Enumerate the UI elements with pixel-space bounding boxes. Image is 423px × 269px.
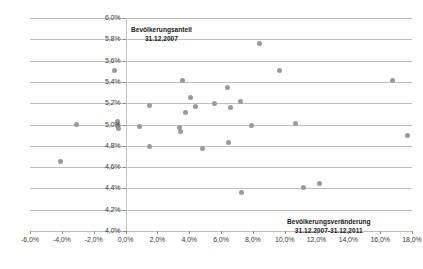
data-point — [112, 68, 117, 73]
gridline-horizontal — [30, 82, 412, 83]
x-axis-tick-label: 12,0% — [299, 236, 335, 243]
gridline-horizontal — [30, 167, 412, 168]
gridline-horizontal — [30, 61, 412, 62]
data-point — [239, 190, 244, 195]
y-axis-tick-mark — [123, 82, 126, 83]
y-axis-tick-label: 5,0% — [93, 121, 121, 128]
x-axis-tick-label: 14,0% — [330, 236, 366, 243]
y-axis-tick-mark — [123, 188, 126, 189]
data-point — [200, 146, 205, 151]
x-axis-tick-mark — [317, 231, 318, 234]
x-axis-tick-mark — [30, 231, 31, 234]
y-axis-line — [126, 18, 127, 231]
x-axis-tick-label: 2,0% — [139, 236, 175, 243]
data-point — [228, 105, 233, 110]
data-point — [212, 101, 217, 106]
data-point — [405, 133, 410, 138]
x-axis-tick-mark — [62, 231, 63, 234]
y-axis-tick-mark — [123, 167, 126, 168]
x-axis-tick-label: 10,0% — [267, 236, 303, 243]
data-point — [238, 99, 243, 104]
data-point — [277, 68, 282, 73]
data-point — [178, 129, 183, 134]
plot-area — [30, 18, 412, 231]
data-point — [225, 85, 230, 90]
x-axis-tick-label: -6,0% — [12, 236, 48, 243]
x-axis-tick-mark — [157, 231, 158, 234]
gridline-horizontal — [30, 125, 412, 126]
y-axis-title-line1: Bevölkerungsanteil — [131, 26, 192, 33]
data-point — [58, 159, 63, 164]
y-axis-tick-label: 4,0% — [93, 227, 121, 234]
x-axis-title: Bevölkerungsveränderung 31.12.2007-31.12… — [287, 218, 371, 236]
x-axis-tick-label: 16,0% — [362, 236, 398, 243]
y-axis-tick-mark — [123, 146, 126, 147]
y-axis-tick-label: 4,8% — [93, 142, 121, 149]
data-point — [188, 95, 193, 100]
data-point — [74, 122, 79, 127]
data-point — [183, 110, 188, 115]
x-axis-title-line2: 31.12.2007-31.12.2011 — [287, 227, 371, 236]
x-axis-tick-mark — [94, 231, 95, 234]
gridline-horizontal — [30, 18, 412, 19]
gridline-horizontal — [30, 188, 412, 189]
gridline-horizontal — [30, 39, 412, 40]
x-axis-tick-mark — [126, 231, 127, 234]
y-axis-title: Bevölkerungsanteil 31.12.2007 — [131, 26, 192, 44]
x-axis-tick-label: 0,0% — [108, 236, 144, 243]
y-axis-tick-label: 4,4% — [93, 184, 121, 191]
y-axis-tick-mark — [123, 39, 126, 40]
x-axis-tick-mark — [348, 231, 349, 234]
data-point — [147, 144, 152, 149]
y-axis-tick-label: 4,6% — [93, 163, 121, 170]
gridline-horizontal — [30, 146, 412, 147]
y-axis-tick-label: 5,2% — [93, 99, 121, 106]
data-point — [193, 104, 198, 109]
y-axis-tick-label: 4,2% — [93, 206, 121, 213]
gridline-horizontal — [30, 103, 412, 104]
gridline-horizontal — [30, 210, 412, 211]
x-axis-tick-mark — [285, 231, 286, 234]
x-axis-tick-mark — [221, 231, 222, 234]
x-axis-tick-label: 6,0% — [203, 236, 239, 243]
y-axis-tick-mark — [123, 125, 126, 126]
x-axis-tick-label: -4,0% — [44, 236, 80, 243]
scatter-chart: Bevölkerungsanteil 31.12.2007 Bevölkerun… — [0, 0, 423, 269]
y-axis-tick-mark — [123, 210, 126, 211]
y-axis-tick-mark — [123, 61, 126, 62]
data-point — [249, 123, 254, 128]
data-point — [226, 140, 231, 145]
y-axis-tick-mark — [123, 103, 126, 104]
x-axis-tick-mark — [253, 231, 254, 234]
y-axis-tick-label: 6,0% — [93, 14, 121, 21]
data-point — [137, 124, 142, 129]
data-point — [317, 181, 322, 186]
x-axis-title-line1: Bevölkerungsveränderung — [287, 218, 371, 225]
x-axis-tick-mark — [380, 231, 381, 234]
x-axis-tick-label: 18,0% — [394, 236, 423, 243]
x-axis-tick-label: 4,0% — [171, 236, 207, 243]
y-axis-tick-label: 5,8% — [93, 35, 121, 42]
y-axis-title-line2: 31.12.2007 — [131, 35, 192, 44]
data-point — [147, 103, 152, 108]
data-point — [257, 41, 262, 46]
x-axis-tick-label: -2,0% — [76, 236, 112, 243]
y-axis-tick-label: 5,4% — [93, 78, 121, 85]
x-axis-tick-label: 8,0% — [235, 236, 271, 243]
y-axis-tick-label: 5,6% — [93, 57, 121, 64]
x-axis-tick-mark — [189, 231, 190, 234]
y-axis-tick-mark — [123, 18, 126, 19]
x-axis-tick-mark — [412, 231, 413, 234]
